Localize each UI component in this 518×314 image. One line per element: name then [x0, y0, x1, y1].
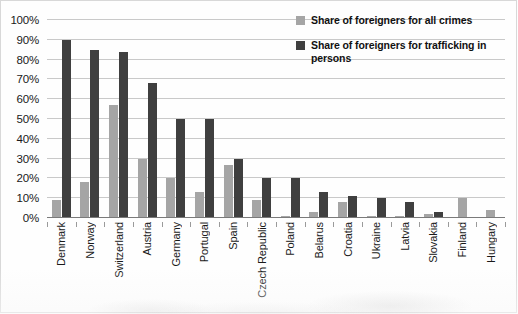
bar-group [247, 20, 276, 218]
bar [138, 159, 147, 218]
y-axis-tick-label: 100% [10, 14, 39, 26]
x-axis-tick-label: Hungary [485, 222, 497, 263]
legend-item-all-crimes: Share of foreigners for all crimes [296, 14, 508, 27]
x-axis-tick [47, 222, 48, 227]
bar [205, 119, 214, 218]
bar [80, 182, 89, 218]
legend-swatch-icon [296, 16, 305, 25]
y-axis-tick-label: 90% [17, 34, 39, 46]
x-axis-tick-label: Austria [141, 222, 153, 256]
bar [348, 196, 357, 218]
y-axis-tick-label: 20% [17, 172, 39, 184]
y-axis-tick-label: 30% [17, 153, 39, 165]
bar [166, 178, 175, 218]
x-axis-tick-label: Finland [456, 222, 468, 257]
x-axis-tick [247, 222, 248, 227]
x-axis-tick-label: Norway [84, 222, 96, 259]
bar [90, 50, 99, 218]
x-axis-tick-label: Spain [227, 222, 239, 250]
chart-container: 0%10%20%30%40%50%60%70%80%90%100% Denmar… [0, 0, 518, 314]
bar [62, 40, 71, 218]
y-axis-tick-label: 70% [17, 73, 39, 85]
x-axis-tick-label: Ukraine [370, 222, 382, 259]
x-axis-tick-label: Portugal [198, 222, 210, 262]
x-axis-tick [333, 222, 334, 227]
bar [195, 192, 204, 218]
bar [148, 83, 157, 218]
x-axis-tick [104, 222, 105, 227]
bar [319, 192, 328, 218]
bar [458, 198, 467, 218]
x-axis-tick [419, 222, 420, 227]
legend-item-trafficking: Share of foreigners for trafficking in p… [296, 39, 508, 65]
bar-group [47, 20, 76, 218]
x-axis-tick-label: Latvia [399, 222, 411, 251]
x-axis-tick-label: Slovakia [427, 222, 439, 263]
x-axis-tick-label: Switzerland [113, 222, 125, 278]
bar [252, 200, 261, 218]
x-axis-tick-label: Croatia [342, 222, 354, 257]
bar [52, 200, 61, 218]
x-axis-tick [219, 222, 220, 227]
bar [262, 178, 271, 218]
bar [234, 159, 243, 218]
x-axis-tick [276, 222, 277, 227]
bar [338, 202, 347, 218]
y-axis-tick-label: 10% [17, 192, 39, 204]
legend-swatch-icon [296, 41, 305, 50]
bar [377, 198, 386, 218]
x-axis-tick-label: Poland [284, 222, 296, 256]
bar [176, 119, 185, 218]
y-axis-tick-label: 50% [17, 113, 39, 125]
bar-group [162, 20, 191, 218]
x-axis-tick [391, 222, 392, 227]
chart-legend: Share of foreigners for all crimes Share… [296, 14, 508, 77]
x-axis-tick [305, 222, 306, 227]
x-axis-tick-label: Germany [170, 222, 182, 267]
x-axis-tick-label: Belarus [313, 222, 325, 259]
y-axis-tick-label: 0% [23, 212, 39, 224]
x-axis-tick [76, 222, 77, 227]
y-axis-tick-label: 60% [17, 93, 39, 105]
x-axis-line [47, 217, 505, 218]
x-axis-tick [133, 222, 134, 227]
bar-group [190, 20, 219, 218]
bar-group [76, 20, 105, 218]
y-axis-tick-label: 80% [17, 54, 39, 66]
bar [405, 202, 414, 218]
y-axis-tick-label: 40% [17, 133, 39, 145]
x-axis-tick [448, 222, 449, 227]
x-axis-tick [190, 222, 191, 227]
x-axis-tick [505, 222, 506, 227]
y-axis-labels: 0%10%20%30%40%50%60%70%80%90%100% [0, 20, 44, 218]
bar-group [133, 20, 162, 218]
x-axis-labels: DenmarkNorwaySwitzerlandAustriaGermanyPo… [47, 222, 505, 310]
x-axis-tick [476, 222, 477, 227]
x-axis-tick [362, 222, 363, 227]
x-axis-tick-label: Denmark [55, 222, 67, 266]
bar [291, 178, 300, 218]
bar-group [104, 20, 133, 218]
x-axis-tick-label: Czech Republic [256, 222, 268, 298]
x-axis-tick [162, 222, 163, 227]
bar-group [219, 20, 248, 218]
legend-label: Share of foreigners for all crimes [311, 14, 472, 27]
legend-label: Share of foreigners for trafficking in p… [311, 39, 508, 65]
bar [109, 105, 118, 218]
bar [119, 52, 128, 218]
bar [224, 165, 233, 218]
